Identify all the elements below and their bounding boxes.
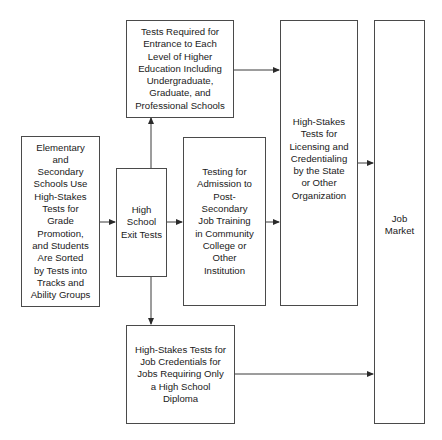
box-job-market: Job Market <box>374 20 425 424</box>
box-label: Elementary and Secondary Schools Use Hig… <box>31 142 91 302</box>
box-high-school-diploma-job-credentials: High-Stakes Tests for Job Credentials fo… <box>126 325 235 424</box>
box-label: Job Market <box>385 213 414 238</box>
box-label: Tests Required for Entrance to Each Leve… <box>135 26 225 112</box>
box-label: Testing for Admission to Post- Secondary… <box>195 166 254 277</box>
box-high-school-exit-tests: High School Exit Tests <box>116 168 167 277</box>
box-post-secondary-admission-testing: Testing for Admission to Post- Secondary… <box>183 137 266 306</box>
box-label: High-Stakes Tests for Job Credentials fo… <box>135 344 226 405</box>
box-label: High School Exit Tests <box>121 204 162 241</box>
box-licensing-credentialing-tests: High-Stakes Tests for Licensing and Cred… <box>280 20 358 306</box>
box-elementary-secondary-tests: Elementary and Secondary Schools Use Hig… <box>21 136 100 307</box>
box-label: High-Stakes Tests for Licensing and Cred… <box>289 116 348 202</box>
box-higher-education-entrance-tests: Tests Required for Entrance to Each Leve… <box>126 20 234 118</box>
